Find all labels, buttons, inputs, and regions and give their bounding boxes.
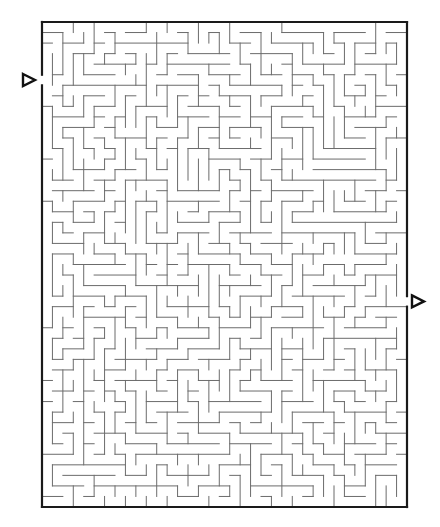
maze: [0, 0, 440, 527]
maze-walls: [42, 22, 407, 507]
finish-arrow-icon: [412, 295, 424, 307]
start-arrow-icon: [23, 74, 35, 86]
